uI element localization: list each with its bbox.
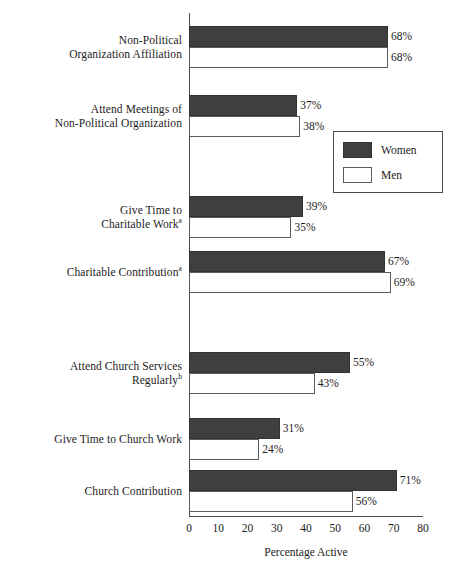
bar-women: [189, 352, 350, 373]
bar-men: [189, 491, 353, 512]
category-label: Non-PoliticalOrganization Affiliation: [0, 33, 182, 61]
bar-value-label: 67%: [385, 251, 409, 272]
category-label: Give Time toCharitable Worka: [0, 203, 182, 231]
bar-women: [189, 26, 388, 47]
bar-men: [189, 47, 388, 68]
bar-men: [189, 439, 259, 460]
category-label: Charitable Contributiona: [0, 265, 182, 279]
bar-value-label: 68%: [388, 26, 412, 47]
legend-item-women: Women: [343, 139, 442, 160]
x-tick-label: 40: [300, 522, 312, 534]
bar-women: [189, 95, 297, 116]
bar-value-label: 38%: [300, 116, 324, 137]
category-label: Attend Church ServicesRegularlyb: [0, 359, 182, 387]
bar-men: [189, 217, 291, 238]
legend-label-men: Men: [381, 169, 402, 181]
category-footnote-marker: a: [179, 264, 182, 273]
bar-value-label: 35%: [291, 217, 315, 238]
x-tick-label: 50: [330, 522, 342, 534]
chart-legend: Women Men: [333, 131, 443, 193]
legend-swatch-women: [343, 142, 372, 158]
x-tick-label: 30: [271, 522, 283, 534]
bar-chart: Non-PoliticalOrganization AffiliationAtt…: [0, 0, 460, 583]
bar-value-label: 24%: [259, 439, 283, 460]
bar-women: [189, 196, 303, 217]
bar-women: [189, 418, 280, 439]
x-tick-label: 20: [242, 522, 254, 534]
x-tick-label: 60: [359, 522, 371, 534]
category-footnote-marker: b: [178, 372, 182, 381]
x-tick-label: 70: [388, 522, 400, 534]
bar-men: [189, 373, 315, 394]
bar-women: [189, 251, 385, 272]
x-tick-label: 0: [186, 522, 192, 534]
category-footnote-marker: a: [179, 216, 182, 225]
legend-label-women: Women: [381, 144, 416, 156]
legend-swatch-men: [343, 167, 372, 183]
bar-value-label: 68%: [388, 47, 412, 68]
bar-value-label: 37%: [297, 95, 321, 116]
x-axis-line: [189, 516, 423, 517]
bar-value-label: 56%: [353, 491, 377, 512]
bar-value-label: 69%: [391, 272, 415, 293]
bar-value-label: 39%: [303, 196, 327, 217]
x-tick-label: 80: [417, 522, 429, 534]
bar-value-label: 55%: [350, 352, 374, 373]
bar-men: [189, 116, 300, 137]
category-label: Attend Meetings ofNon-Political Organiza…: [0, 102, 182, 130]
bar-value-label: 71%: [397, 470, 421, 491]
bar-men: [189, 272, 391, 293]
category-label: Church Contribution: [0, 484, 182, 498]
category-label: Give Time to Church Work: [0, 432, 182, 446]
bar-women: [189, 470, 397, 491]
x-axis-title: Percentage Active: [189, 546, 423, 558]
bar-value-label: 31%: [280, 418, 304, 439]
bar-value-label: 43%: [315, 373, 339, 394]
legend-item-men: Men: [343, 164, 442, 185]
x-tick-label: 10: [213, 522, 225, 534]
